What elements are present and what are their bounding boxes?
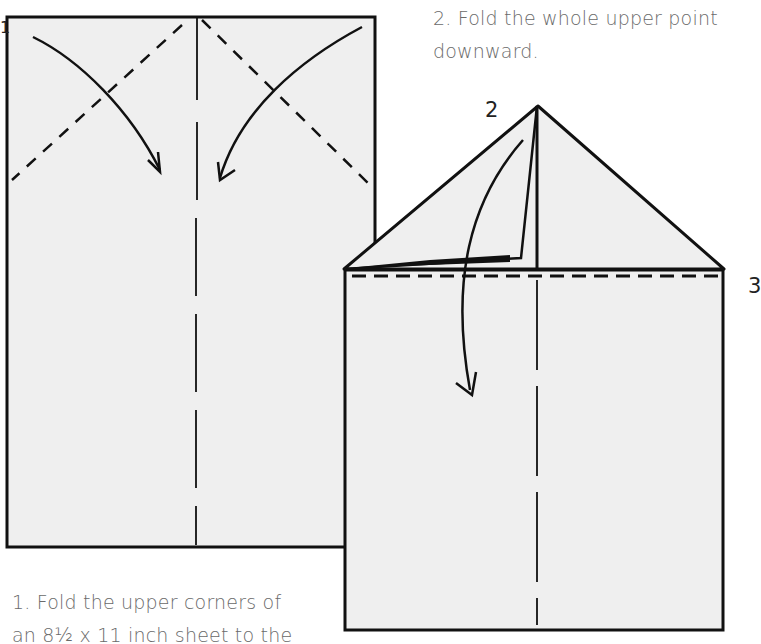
step-number-1: 1 (0, 18, 10, 37)
step2-caption: 2. Fold the whole upper point downward. (433, 2, 718, 68)
step1-caption-line1: 1. Fold the upper corners of (12, 586, 292, 619)
step2-caption-line1: 2. Fold the whole upper point (433, 2, 718, 35)
step1-sheet (7, 17, 375, 547)
step1-caption: 1. Fold the upper corners of an 8½ x 11 … (12, 586, 292, 644)
step2-caption-line2: downward. (433, 35, 718, 68)
step-number-2: 2 (485, 98, 498, 122)
step2-sheet (344, 106, 724, 630)
step1-caption-line2: an 8½ x 11 inch sheet to the (12, 619, 292, 644)
step-number-3: 3 (748, 274, 761, 298)
